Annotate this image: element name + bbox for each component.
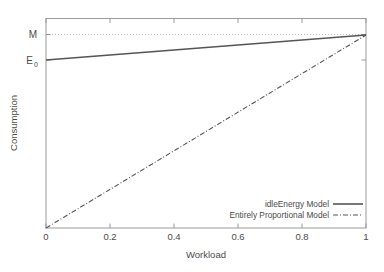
y-tick-label-m: M — [29, 29, 37, 40]
x-axis-title: Workload — [186, 249, 226, 260]
x-tick-label-1: 0.2 — [103, 231, 116, 242]
x-tick-label-5: 1 — [363, 231, 368, 242]
x-tick-label-4: 0.8 — [295, 231, 308, 242]
figure-background — [0, 0, 384, 272]
x-tick-label-0: 0 — [43, 231, 48, 242]
legend-label-entirely-proportional-model: Entirely Proportional Model — [229, 210, 329, 220]
legend-label-idle-energy-model: idleEnergy Model — [265, 199, 329, 209]
chart-figure: M E 0 0 0.2 0.4 0.6 0.8 1 Workload Consu… — [0, 0, 384, 272]
y-axis-title: Consumption — [8, 95, 19, 151]
y-tick-label-e0-subscript: 0 — [34, 61, 38, 68]
chart-canvas: M E 0 0 0.2 0.4 0.6 0.8 1 Workload Consu… — [0, 0, 384, 272]
x-tick-label-3: 0.6 — [231, 231, 244, 242]
x-tick-label-2: 0.4 — [167, 231, 180, 242]
y-tick-label-e0-base: E — [26, 55, 33, 66]
